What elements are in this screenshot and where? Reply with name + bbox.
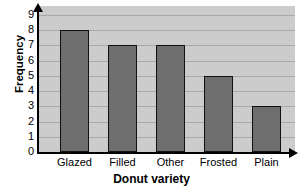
arrow-up-icon	[33, 3, 43, 12]
bar	[156, 45, 185, 152]
bar	[204, 76, 233, 152]
bar	[108, 45, 137, 152]
y-tick-label: 1	[22, 131, 34, 142]
plot-area	[38, 6, 295, 153]
y-tick-label: 0	[22, 146, 34, 157]
bar	[60, 30, 89, 152]
x-axis-line	[37, 152, 290, 154]
y-axis-line	[37, 10, 39, 154]
gridline	[38, 15, 295, 16]
y-axis-title: Frequency	[13, 14, 25, 114]
bar-chart: 0123456789 GlazedFilledOtherFrostedPlain…	[0, 0, 303, 193]
x-tick-label: Plain	[237, 156, 297, 168]
y-tick-label: 2	[22, 116, 34, 127]
bar	[252, 106, 281, 152]
x-axis-title: Donut variety	[0, 172, 303, 186]
